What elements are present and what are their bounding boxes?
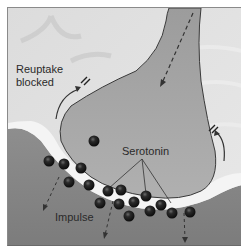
reuptake-label-line2: blocked [16, 76, 63, 89]
serotonin-label: Serotonin [122, 145, 169, 158]
synapse-diagram: Reuptake blocked Serotonin Impulse [7, 7, 241, 246]
synapse-illustration [8, 8, 241, 245]
reuptake-label-line1: Reuptake [16, 63, 63, 76]
reuptake-blocked-label: Reuptake blocked [16, 63, 63, 89]
impulse-label: Impulse [55, 211, 94, 224]
